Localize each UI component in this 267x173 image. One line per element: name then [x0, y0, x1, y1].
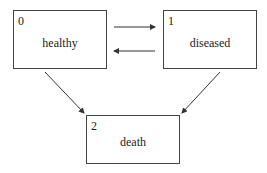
state-label: diseased: [164, 36, 256, 51]
state-number: 0: [18, 14, 24, 29]
state-label: healthy: [14, 36, 106, 51]
arrow-diseased-to-death: [182, 72, 220, 113]
state-box-healthy: 0 healthy: [13, 10, 107, 69]
state-number: 1: [168, 14, 174, 29]
state-box-diseased: 1 diseased: [163, 10, 257, 69]
state-label: death: [87, 135, 179, 150]
state-number: 2: [91, 119, 97, 134]
state-box-death: 2 death: [86, 115, 180, 164]
arrow-healthy-to-death: [45, 72, 84, 113]
